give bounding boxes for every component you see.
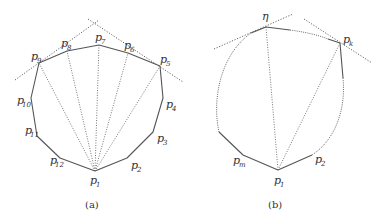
svg-text:12: 12	[55, 161, 64, 169]
hull-chain-left	[217, 33, 251, 132]
panel-b: p1 p2 pm η pk (b)	[214, 10, 372, 210]
svg-text:8: 8	[67, 44, 72, 52]
hull-solid-top-left	[251, 27, 290, 33]
tangent-line-left	[15, 20, 99, 80]
svg-text:5: 5	[166, 60, 171, 68]
diagonal-p1-eta	[266, 27, 278, 170]
diagonal-p1-pk	[278, 43, 340, 170]
caption-a: (a)	[85, 199, 99, 210]
svg-text:k: k	[349, 40, 353, 48]
panel-a: p1 p2 p3 p4 p5 p6 p7 p8 p9 p10 p11 p12 (…	[15, 19, 183, 210]
svg-text:2: 2	[136, 166, 142, 174]
svg-text:3: 3	[163, 139, 168, 147]
convex-polygon-figure: p1 p2 p3 p4 p5 p6 p7 p8 p9 p10 p11 p12 (…	[0, 0, 387, 215]
hull-chain-right	[312, 78, 343, 155]
diagonals-from-p1	[39, 45, 160, 171]
tangent-line-right	[88, 19, 183, 82]
vertex-labels-b: p1 p2 pm η pk	[233, 10, 353, 189]
svg-text:10: 10	[22, 101, 31, 109]
svg-text:1: 1	[96, 181, 100, 189]
svg-text:1: 1	[280, 181, 284, 189]
svg-text:4: 4	[171, 105, 176, 113]
svg-text:m: m	[239, 161, 246, 169]
svg-text:η: η	[262, 10, 269, 23]
svg-text:6: 6	[130, 46, 135, 54]
hull-chain-top	[290, 30, 328, 39]
caption-b: (b)	[268, 199, 282, 210]
svg-text:2: 2	[320, 160, 326, 168]
hull-solid-pk	[328, 39, 343, 78]
svg-text:11: 11	[30, 131, 39, 139]
tangent-line-pk	[304, 19, 372, 63]
svg-text:9: 9	[37, 57, 42, 65]
svg-text:7: 7	[101, 38, 106, 46]
